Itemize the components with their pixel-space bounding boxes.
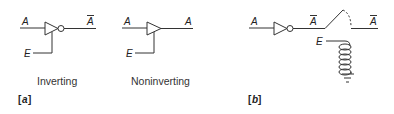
inverter-triangle-icon bbox=[274, 22, 287, 35]
caption-inverting: Inverting bbox=[37, 75, 77, 87]
input-label: A bbox=[21, 16, 29, 27]
enable-wire bbox=[33, 32, 52, 53]
enable-label: E bbox=[316, 36, 323, 47]
output-label: A bbox=[184, 16, 192, 27]
enable-wire bbox=[326, 41, 350, 46]
caption-noninverting: Noninverting bbox=[131, 75, 190, 87]
relay-switch-blade-icon bbox=[325, 10, 343, 29]
input-label: A bbox=[123, 16, 131, 27]
enable-label: E bbox=[24, 48, 31, 59]
svg-text:]: ] bbox=[28, 94, 31, 105]
enable-wire bbox=[135, 32, 154, 53]
input-label: A bbox=[250, 16, 258, 27]
relay-equivalent-circuit: A A A E bbox=[249, 10, 378, 82]
output-label: A bbox=[86, 16, 94, 27]
tristate-buffer-diagram: A A E Inverting A A E Noninverting [ a ]… bbox=[0, 0, 394, 114]
inverter-output-label: A bbox=[309, 16, 317, 27]
panel-label-a: [ a ] bbox=[18, 94, 31, 105]
noninverting-tristate-buffer: A A E Noninverting bbox=[122, 16, 193, 87]
switch-output-label: A bbox=[369, 16, 377, 27]
ground-icon bbox=[342, 72, 354, 82]
inverting-tristate-buffer: A A E Inverting bbox=[20, 16, 96, 88]
svg-text:]: ] bbox=[258, 94, 261, 105]
enable-label: E bbox=[126, 48, 133, 59]
relay-coil-icon bbox=[339, 44, 351, 75]
switch-travel-arc-icon bbox=[343, 10, 351, 27]
panel-label-b: [ b ] bbox=[248, 94, 261, 105]
